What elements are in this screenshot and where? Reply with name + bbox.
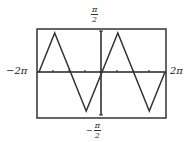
y-max-denominator: 2	[92, 15, 97, 24]
y-max-label: π 2	[91, 5, 98, 24]
y-min-sign: −	[86, 126, 93, 135]
y-min-denominator: 2	[95, 131, 100, 140]
y-min-label: − π 2	[86, 121, 101, 140]
x-min-label: −2π	[6, 65, 27, 76]
x-max-label: 2π	[170, 65, 183, 76]
y-min-numerator: π	[94, 121, 101, 131]
y-max-numerator: π	[91, 5, 98, 15]
